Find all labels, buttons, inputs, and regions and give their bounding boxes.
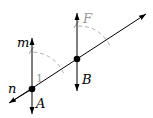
- construction-arc-B: [78, 26, 110, 46]
- label-B: B: [81, 72, 92, 87]
- geometry-diagram: m n A B F 1: [0, 0, 153, 118]
- point-A: [29, 86, 36, 93]
- label-F: F: [82, 11, 93, 26]
- label-n: n: [8, 81, 16, 96]
- point-B: [74, 56, 81, 63]
- label-angle-1: 1: [36, 72, 43, 85]
- label-m: m: [17, 35, 29, 50]
- label-A: A: [35, 96, 45, 111]
